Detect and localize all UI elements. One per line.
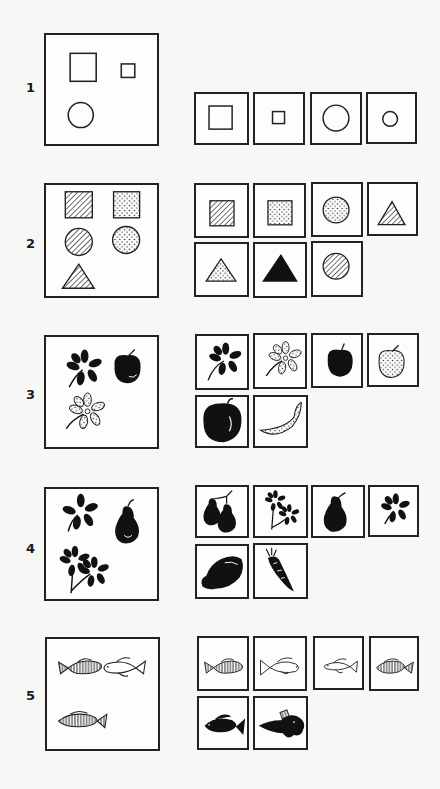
choice-3-dotted-apple[interactable] — [367, 333, 419, 387]
choice-4-black-flower[interactable] — [368, 485, 419, 537]
choice-2-dotted-square[interactable] — [253, 183, 306, 238]
exercise-number-1: 1 — [26, 80, 35, 95]
sample-card-1 — [44, 33, 159, 146]
choice-5-black-spiny-fish[interactable] — [253, 696, 308, 750]
choice-3-black-apple[interactable] — [311, 333, 363, 388]
choice-3-dotted-flower[interactable] — [253, 333, 307, 389]
sample-shapes-5 — [47, 639, 158, 749]
choice-2-dotted-circle[interactable] — [311, 182, 363, 237]
choice-3-black-flower[interactable] — [195, 334, 249, 390]
choice-4-black-carrot[interactable] — [253, 543, 308, 599]
exercise-number-4: 4 — [26, 541, 35, 556]
choice-1-small-circle[interactable] — [366, 92, 417, 144]
choice-4-black-squash[interactable] — [195, 544, 249, 599]
choice-5-black-fish[interactable] — [197, 696, 249, 750]
choice-1-small-square[interactable] — [253, 92, 305, 145]
choice-4-black-pear[interactable] — [311, 485, 365, 538]
choice-2-hatched-square[interactable] — [194, 183, 249, 238]
choice-5-hatched-fish[interactable] — [197, 636, 249, 691]
choice-5-outline-fish-small[interactable] — [313, 636, 364, 690]
sample-card-4 — [44, 487, 159, 601]
exercise-number-5: 5 — [26, 688, 35, 703]
choice-2-hatched-circle[interactable] — [311, 241, 363, 297]
sample-card-5 — [45, 637, 160, 751]
sample-card-2 — [44, 183, 159, 298]
choice-1-large-square[interactable] — [194, 92, 249, 145]
sample-card-3 — [44, 335, 159, 449]
choice-2-hatched-triangle[interactable] — [367, 182, 418, 236]
choice-3-black-pepper[interactable] — [195, 395, 249, 448]
sample-shapes-2 — [46, 185, 157, 296]
exercise-number-3: 3 — [26, 387, 35, 402]
choice-1-large-circle[interactable] — [310, 92, 362, 145]
choice-4-two-black-flowers[interactable] — [253, 485, 308, 538]
exercise-number-2: 2 — [26, 236, 35, 251]
choice-5-hatched-fish-right[interactable] — [369, 636, 419, 691]
choice-3-dotted-peapod[interactable] — [253, 395, 308, 448]
sample-shapes-1 — [46, 35, 157, 144]
sample-shapes-4 — [46, 489, 157, 599]
sample-shapes-3 — [46, 337, 157, 447]
choice-2-black-triangle[interactable] — [253, 242, 307, 298]
choice-4-two-black-pears[interactable] — [195, 485, 249, 538]
choice-2-dotted-triangle[interactable] — [194, 242, 249, 297]
choice-5-outline-fish-large[interactable] — [253, 636, 307, 691]
